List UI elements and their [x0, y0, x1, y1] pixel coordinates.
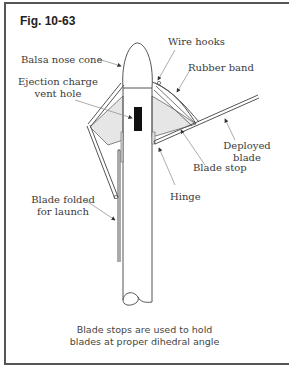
- figure-caption: Blade stops are used to hold blades at p…: [0, 324, 289, 348]
- label-vent-hole-line1: Ejection charge: [18, 76, 98, 88]
- label-nose-cone: Balsa nose cone: [21, 54, 102, 66]
- label-rubber-band: Rubber band: [188, 62, 254, 74]
- label-folded-line2: for launch: [30, 206, 96, 218]
- vent-hole: [134, 107, 142, 131]
- label-blade-stop: Blade stop: [193, 162, 247, 174]
- label-deployed-line1: Deployed: [222, 140, 272, 152]
- label-vent-hole-line2: vent hole: [18, 88, 98, 100]
- right-blade-stop: [152, 96, 196, 137]
- caption-line2: blades at proper dihedral angle: [0, 336, 289, 348]
- nose-cone: [123, 43, 153, 88]
- label-vent-hole: Ejection charge vent hole: [18, 76, 98, 100]
- label-deployed-blade: Deployed blade: [222, 140, 272, 164]
- label-folded-line1: Blade folded: [30, 194, 96, 206]
- label-folded-blade: Blade folded for launch: [30, 194, 96, 218]
- label-wire-hooks: Wire hooks: [168, 36, 225, 48]
- caption-line1: Blade stops are used to hold: [0, 324, 289, 336]
- label-hinge: Hinge: [170, 191, 201, 203]
